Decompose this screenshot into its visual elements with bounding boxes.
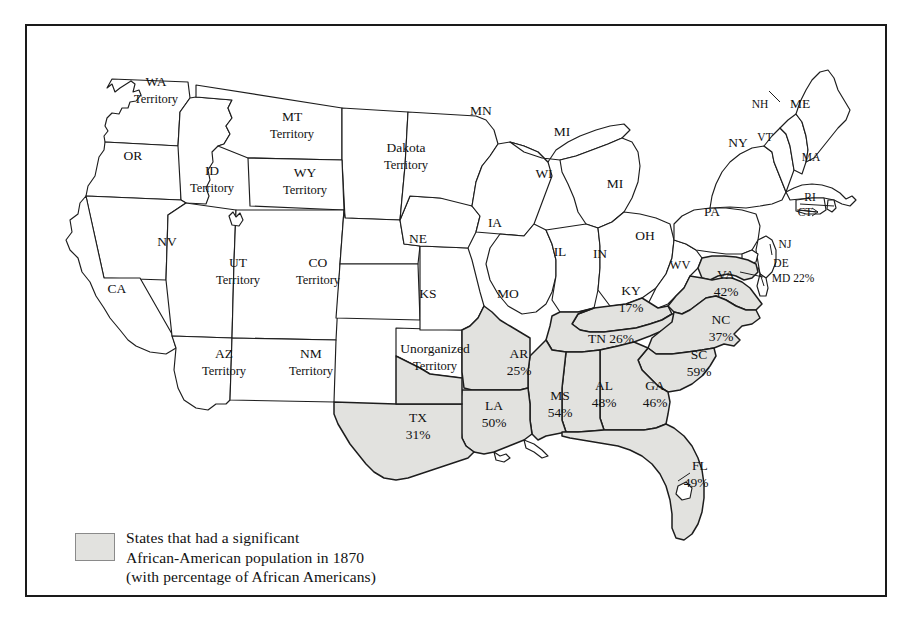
label-mo: MO [497, 286, 519, 301]
label-in: IN [593, 246, 607, 261]
label-vt: VT [757, 131, 772, 143]
label-fl-val: 49% [684, 475, 709, 490]
label-co: CO [309, 255, 328, 270]
label-ia: IA [488, 215, 502, 230]
label-dakota-sub: Territory [384, 158, 429, 172]
label-ga: GA [645, 378, 665, 393]
label-ri: RI [804, 191, 816, 203]
legend-line-2: African-American population in 1870 [126, 549, 364, 566]
state-ks[interactable] [336, 264, 420, 320]
label-ky: KY [621, 283, 641, 298]
label-wv: WV [670, 258, 691, 272]
leader-nh [769, 91, 780, 102]
label-ut-sub: Territory [216, 273, 261, 287]
map-page: WA Territory OR ID Territory MT Territor… [0, 0, 912, 621]
label-ma: MA [802, 151, 821, 163]
label-va: VA [717, 267, 735, 282]
label-nm-sub: Territory [289, 364, 334, 378]
label-nj: NJ [779, 238, 792, 250]
label-ny: NY [728, 135, 748, 150]
label-la-val: 50% [482, 415, 507, 430]
legend-swatch [75, 533, 115, 561]
label-nh: NH [752, 98, 769, 110]
state-tx[interactable] [334, 402, 474, 480]
label-unorg: Unorganized [400, 341, 470, 356]
label-az: AZ [215, 346, 233, 361]
label-dakota: Dakota [387, 140, 426, 155]
legend-text: States that had a significantAfrican-Ame… [126, 528, 376, 587]
label-md: MD 22% [772, 272, 815, 284]
label-mi-lower: MI [607, 176, 624, 191]
label-ne: NE [409, 231, 427, 246]
label-unorg-sub: Territory [413, 359, 458, 373]
label-fl: FL [692, 458, 708, 473]
label-ms: MS [550, 388, 570, 403]
label-ms-val: 54% [548, 405, 573, 420]
mississippi-delta [524, 440, 548, 458]
label-ar: AR [510, 346, 529, 361]
label-tx-val: 31% [406, 427, 431, 442]
label-pa: PA [704, 204, 720, 219]
label-id-sub: Territory [190, 181, 235, 195]
label-va-val: 42% [714, 284, 739, 299]
label-id: ID [205, 163, 219, 178]
label-mt: MT [282, 109, 303, 124]
state-ut[interactable] [166, 203, 236, 338]
label-il: IL [554, 244, 567, 259]
label-ut: UT [229, 255, 248, 270]
label-wy: WY [294, 165, 317, 180]
label-sc: SC [691, 347, 708, 362]
label-nc-val: 37% [709, 329, 734, 344]
label-mt-sub: Territory [270, 127, 315, 141]
legend-line-3: (with percentage of African Americans) [126, 568, 376, 585]
label-wy-sub: Territory [283, 183, 328, 197]
label-ct: CT [798, 206, 813, 218]
label-nm: NM [300, 346, 322, 361]
label-or: OR [124, 148, 143, 163]
label-oh: OH [635, 228, 655, 243]
label-tn: TN 26% [588, 331, 634, 346]
label-sc-val: 59% [687, 364, 712, 379]
label-wa-sub: Territory [134, 92, 179, 106]
label-al: AL [595, 378, 613, 393]
label-wi: WI [535, 166, 553, 181]
label-nc: NC [712, 312, 731, 327]
legend-line-1: States that had a significant [126, 529, 299, 546]
label-nv: NV [157, 234, 177, 249]
label-az-sub: Territory [202, 364, 247, 378]
label-co-sub: Territory [296, 273, 341, 287]
label-ks: KS [419, 286, 436, 301]
gulf-coast-detail [494, 452, 510, 462]
label-mi-upper: MI [554, 124, 571, 139]
label-ga-val: 46% [643, 395, 668, 410]
label-ar-val: 25% [507, 363, 532, 378]
label-ca: CA [108, 281, 127, 296]
label-de: DE [773, 257, 788, 269]
label-me: ME [790, 96, 810, 111]
label-la: LA [485, 398, 503, 413]
label-mn: MN [470, 103, 492, 118]
label-tx: TX [409, 410, 427, 425]
label-al-val: 48% [592, 395, 617, 410]
label-wa: WA [146, 74, 167, 89]
label-ky-val: 17% [619, 300, 644, 315]
